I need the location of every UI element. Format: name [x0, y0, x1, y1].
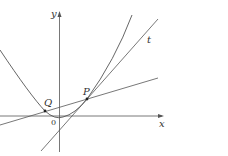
point-q-label: Q [44, 97, 52, 108]
diagram-canvas: y x 0 Q P t [0, 0, 228, 156]
y-axis-label: y [50, 8, 57, 19]
y-arrow-icon [58, 11, 62, 17]
point-p [86, 98, 89, 101]
point-p-label: P [82, 86, 90, 97]
point-q [44, 110, 47, 113]
x-axis-label: x [159, 118, 165, 129]
y-axis [58, 11, 62, 152]
parabola-curve [0, 15, 132, 118]
tangent-label: t [147, 34, 152, 45]
secant-line [0, 78, 158, 125]
origin-label: 0 [51, 118, 56, 127]
tangent-line [41, 19, 158, 151]
